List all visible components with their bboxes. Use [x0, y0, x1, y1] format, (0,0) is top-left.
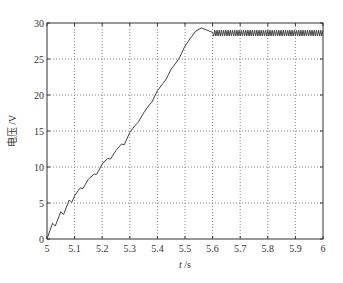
x-tick-label: 6 [321, 243, 326, 254]
x-tick-label: 5.1 [68, 243, 81, 254]
y-tick-label: 20 [34, 90, 44, 101]
x-tick-label: 5.4 [151, 243, 164, 254]
x-tick-label: 5.2 [96, 243, 109, 254]
x-tick-label: 5.5 [179, 243, 192, 254]
grid-lines [47, 23, 323, 239]
x-tick-label: 5 [45, 243, 50, 254]
x-tick-label: 5.3 [124, 243, 137, 254]
x-tick-label: 5.9 [289, 243, 302, 254]
x-tick-label: 5.8 [262, 243, 275, 254]
y-axis-label: 电压 /V [6, 114, 18, 147]
y-tick-label: 25 [34, 54, 44, 65]
x-tick-label: 5.7 [234, 243, 247, 254]
x-axis-label: t /s [179, 259, 191, 270]
y-tick-label: 5 [39, 198, 44, 209]
y-tick-label: 10 [34, 162, 44, 173]
y-tick-label: 0 [39, 234, 44, 245]
voltage-chart: 55.15.25.35.45.55.65.75.85.96 0510152025… [0, 0, 343, 283]
y-tick-label: 30 [34, 18, 44, 29]
y-tick-label: 15 [34, 126, 44, 137]
x-axis-ticks: 55.15.25.35.45.55.65.75.85.96 [45, 23, 326, 254]
x-tick-label: 5.6 [206, 243, 219, 254]
